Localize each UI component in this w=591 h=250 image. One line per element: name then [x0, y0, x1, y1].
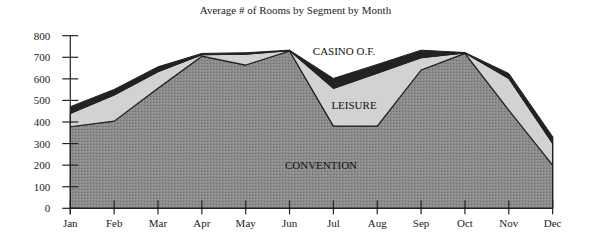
- x-tick-label: Jan: [63, 217, 78, 229]
- x-tick-label: Oct: [457, 217, 473, 229]
- y-tick-label: 300: [34, 138, 51, 150]
- y-tick-label: 500: [34, 94, 51, 106]
- label-convention: CONVENTION: [285, 159, 357, 171]
- y-tick-label: 700: [34, 51, 51, 63]
- y-tick-label: 600: [34, 73, 51, 85]
- x-tick-label: Nov: [499, 217, 518, 229]
- x-tick-label: Jul: [327, 217, 340, 229]
- stacked-area-chart: 0100200300400500600700800JanFebMarAprMay…: [0, 0, 591, 250]
- x-tick-label: Dec: [544, 217, 562, 229]
- x-tick-label: Sep: [413, 217, 430, 229]
- y-tick-label: 0: [45, 202, 51, 214]
- x-tick-label: Apr: [193, 217, 210, 229]
- y-tick-label: 100: [34, 181, 51, 193]
- x-tick-label: Aug: [368, 217, 387, 229]
- label-casino-o-f: CASINO O.F.: [313, 45, 376, 57]
- label-leisure: LEISURE: [331, 99, 377, 111]
- x-tick-label: May: [236, 217, 257, 229]
- y-tick-label: 400: [34, 116, 51, 128]
- plot-area: [70, 50, 552, 208]
- x-tick-label: Feb: [106, 217, 123, 229]
- x-tick-label: Jun: [282, 217, 298, 229]
- y-tick-label: 200: [34, 159, 51, 171]
- y-tick-label: 800: [34, 30, 51, 42]
- x-tick-label: Mar: [149, 217, 168, 229]
